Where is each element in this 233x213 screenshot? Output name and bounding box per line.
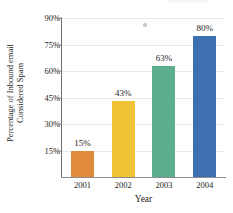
x-axis-title: Year	[62, 194, 225, 204]
bar-2004	[193, 36, 216, 177]
spam-percentage-bar-chart: Percentage of Inbound email Considered S…	[0, 0, 233, 213]
x-tick-label-2001: 2001	[60, 180, 104, 190]
bar-value-label-2003: 63%	[144, 53, 184, 63]
bar-2002	[112, 101, 135, 177]
y-axis-title: Percentage of Inbound email Considered S…	[2, 0, 28, 185]
y-tick-label: 90%	[32, 13, 60, 23]
bar-2003	[152, 66, 175, 177]
y-tick-label: 15%	[32, 146, 60, 156]
y-tick-label: 30%	[32, 119, 60, 129]
bar-2001	[71, 151, 94, 178]
y-tick-label: 60%	[32, 66, 60, 76]
x-tick-label-2002: 2002	[101, 180, 145, 190]
y-axis-title-line-2: Considered Spam	[15, 44, 25, 142]
y-tick-label: 45%	[32, 93, 60, 103]
page-edge-artifact	[168, 0, 208, 5]
plot-area	[62, 18, 225, 177]
x-tick-label-2003: 2003	[142, 180, 186, 190]
y-axis-tick-labels: 15% 30% 45% 60% 75% 90%	[30, 0, 60, 213]
bar-value-label-2002: 43%	[103, 88, 143, 98]
x-tick-label-2004: 2004	[183, 180, 227, 190]
bar-value-label-2004: 80%	[185, 23, 225, 33]
y-axis-title-line-1: Percentage of Inbound email	[5, 44, 15, 142]
y-tick-label: 75%	[32, 40, 60, 50]
x-axis-line	[61, 177, 226, 178]
bar-value-label-2001: 15%	[62, 138, 102, 148]
